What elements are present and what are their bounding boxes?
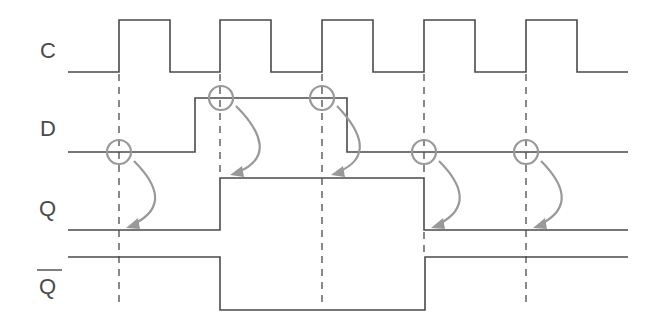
signal-label-qbar-text: Q <box>39 274 56 299</box>
arrow-5 <box>541 161 562 224</box>
arrow-2-head <box>230 166 244 177</box>
signal-label-qbar: Q <box>37 270 62 299</box>
timing-diagram: C D Q Q <box>0 0 666 328</box>
waveform-c <box>68 20 628 72</box>
signal-label-c: C <box>40 38 56 63</box>
edge-guides <box>119 74 526 304</box>
arrow-3-head <box>331 166 345 177</box>
arrow-2 <box>236 106 260 172</box>
arrow-1-head <box>126 218 140 229</box>
arrow-4-head <box>431 218 445 229</box>
waveform-qbar <box>68 257 628 310</box>
waveform-d <box>68 98 628 152</box>
signal-label-d: D <box>40 116 56 141</box>
arrow-3 <box>337 106 360 172</box>
arrow-4 <box>439 161 460 224</box>
arrow-5-head <box>533 218 547 229</box>
propagation-arrows <box>126 106 562 229</box>
arrow-1 <box>134 161 155 224</box>
signal-label-q: Q <box>39 196 56 221</box>
